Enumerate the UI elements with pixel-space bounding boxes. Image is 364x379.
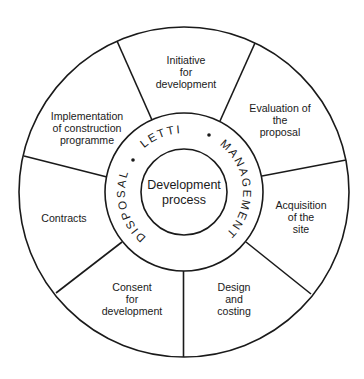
ring-label-management: MANAGEMENT: [218, 137, 253, 241]
segment-label-line: Contracts: [41, 212, 86, 224]
segment-consent: Consent for development: [102, 281, 163, 317]
segment-label-line: Implementation: [51, 110, 124, 122]
segment-initiative: Initiative for development: [156, 54, 217, 90]
segment-label-line: costing: [217, 305, 251, 317]
center-label-line1: Development: [147, 178, 221, 192]
segment-label-line: Design: [218, 281, 251, 293]
segment-label-line: Evaluation of: [249, 102, 310, 114]
inner-circle: [141, 149, 227, 235]
spoke-divider: [246, 242, 311, 294]
spoke-divider: [24, 156, 107, 177]
segment-label-line: development: [102, 305, 163, 317]
center-label-line2: process: [162, 193, 206, 207]
ring-separator-dot: [207, 133, 211, 137]
segment-label-line: development: [156, 78, 217, 90]
segment-label-line: Initiative: [167, 54, 206, 66]
segment-label-line: proposal: [260, 126, 301, 138]
ring-separator-dot: [131, 158, 135, 162]
segment-label-line: programme: [60, 134, 114, 146]
segment-label-line: Acquisition: [275, 199, 326, 211]
development-process-diagram: DISPOSAL LETTING MANAGEMENT Development …: [0, 0, 364, 379]
segment-design: Design and costing: [217, 281, 251, 317]
spoke-divider: [262, 160, 346, 176]
segment-acquisition: Acquisition of the site: [275, 199, 326, 235]
segment-label-line: for: [126, 293, 139, 305]
segment-label-line: of the: [288, 211, 315, 223]
segment-implementation: Implementation of construction programme: [51, 110, 124, 146]
segment-contracts: Contracts: [41, 212, 86, 224]
wheel-svg: DISPOSAL LETTING MANAGEMENT Development …: [0, 0, 364, 379]
segment-label-line: for: [180, 66, 193, 78]
segment-label-line: Consent: [112, 281, 152, 293]
segment-label-line: site: [293, 223, 310, 235]
segment-label-line: and: [225, 293, 243, 305]
segment-label-line: the: [273, 114, 288, 126]
spoke-divider: [117, 41, 152, 120]
segment-label-line: of construction: [53, 122, 122, 134]
ring-outer-circle: [105, 113, 263, 271]
segment-evaluation: Evaluation of the proposal: [249, 102, 310, 138]
